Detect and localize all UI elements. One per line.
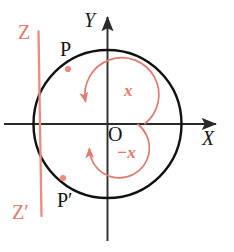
- angle-x-label: x: [124, 82, 133, 99]
- point-p-prime-label: P′: [57, 190, 73, 210]
- angle-arc-positive: [85, 58, 159, 124]
- ray-z-prime-label: Z′: [12, 202, 29, 222]
- origin-label: O: [108, 124, 122, 144]
- figure-root: Y X O Z Z′ P P′ x −x: [0, 0, 234, 252]
- x-axis-label: X: [202, 128, 214, 148]
- ray-z-label: Z: [18, 22, 30, 42]
- y-axis-label: Y: [84, 10, 95, 30]
- angle-negative-x-label: −x: [117, 144, 136, 161]
- point-p-label: P: [60, 39, 71, 59]
- ray-zz-prime: [39, 32, 42, 217]
- point-p-prime-dot: [60, 175, 66, 181]
- point-p-dot: [65, 66, 71, 72]
